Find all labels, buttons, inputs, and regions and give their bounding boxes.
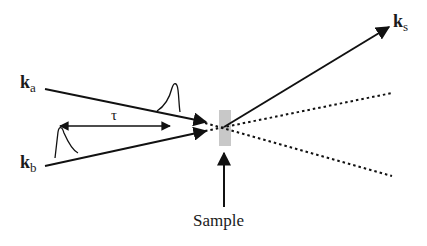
sample-label: Sample — [193, 211, 244, 230]
kb-beam-arrow — [45, 131, 206, 166]
ka-beam-arrow — [45, 89, 206, 122]
delay-label: τ — [111, 107, 117, 123]
kb-transmitted-dotted — [205, 93, 392, 131]
pump-probe-diagram: τ Sample ka kb ks — [0, 0, 427, 246]
kb-pulse-icon — [55, 128, 78, 158]
ka-label: ka — [20, 72, 36, 95]
ks-label: ks — [393, 11, 408, 34]
kb-label: kb — [20, 152, 37, 175]
ks-signal-arrow — [224, 27, 389, 127]
ka-pulse-icon — [157, 84, 180, 112]
ka-transmitted-dotted — [205, 123, 392, 176]
